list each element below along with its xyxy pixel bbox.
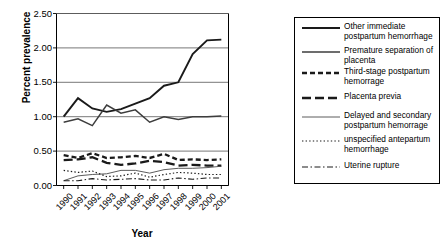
- series-line-7: [64, 178, 222, 181]
- legend-label: Placenta previa: [341, 92, 441, 102]
- legend-item-4[interactable]: Placenta previa: [295, 92, 441, 104]
- chart-legend: Other immediate postpartum hemorrhagePre…: [294, 17, 440, 184]
- legend-item-2[interactable]: Premature separation of placenta: [295, 46, 441, 65]
- legend-swatch-icon: [301, 161, 341, 173]
- legend-swatch-icon: [301, 22, 341, 34]
- legend-item-3[interactable]: Third-stage postpartum hemorrage: [295, 67, 441, 86]
- legend-label: Delayed and secondary postpartum hemorra…: [341, 111, 441, 130]
- legend-item-5[interactable]: Delayed and secondary postpartum hemorra…: [295, 111, 441, 130]
- legend-item-7[interactable]: Uterine rupture: [295, 161, 441, 173]
- legend-item-1[interactable]: Other immediate postpartum hemorrhage: [295, 22, 441, 41]
- legend-label: Premature separation of placenta: [341, 46, 441, 65]
- legend-item-6[interactable]: unspecified antepartum hemorrhage: [295, 135, 441, 154]
- legend-label: Third-stage postpartum hemorrage: [341, 67, 441, 86]
- series-line-2: [64, 105, 222, 126]
- chart-figure: Percent prevalence Year 0.000.501.001.50…: [0, 0, 448, 248]
- series-line-3: [64, 153, 222, 160]
- legend-swatch-icon: [301, 46, 341, 58]
- legend-label: Uterine rupture: [341, 161, 441, 171]
- legend-swatch-icon: [301, 111, 341, 123]
- x-axis-ticks: [64, 186, 222, 190]
- data-series-group: [64, 40, 222, 181]
- series-line-1: [64, 40, 222, 117]
- legend-label: Other immediate postpartum hemorrhage: [341, 22, 441, 41]
- legend-swatch-icon: [301, 135, 341, 147]
- legend-swatch-icon: [301, 67, 341, 79]
- legend-swatch-icon: [301, 92, 341, 104]
- legend-label: unspecified antepartum hemorrhage: [341, 135, 441, 154]
